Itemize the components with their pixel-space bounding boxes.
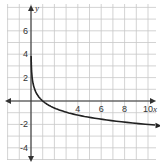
y-tick-label: 6	[23, 26, 28, 36]
x-tick-label: 10	[143, 104, 153, 114]
x-axis-label: x	[152, 104, 157, 114]
x-tick-label: 8	[122, 104, 127, 114]
y-axis-up-arrow-icon	[28, 5, 34, 11]
y-axis-down-arrow-icon	[28, 156, 34, 162]
y-axis-label: y	[34, 3, 39, 13]
x-tick-label: 4	[75, 104, 80, 114]
y-tick-label: 4	[23, 49, 28, 59]
y-tick-label: 2	[23, 73, 28, 83]
y-tick-label: -4	[20, 143, 28, 153]
grid	[7, 4, 156, 160]
chart: 46810642-2-4 x y	[0, 0, 160, 166]
y-tick-label: -2	[20, 119, 28, 129]
x-tick-label: 6	[99, 104, 104, 114]
curve-arrow-icon	[156, 123, 160, 129]
